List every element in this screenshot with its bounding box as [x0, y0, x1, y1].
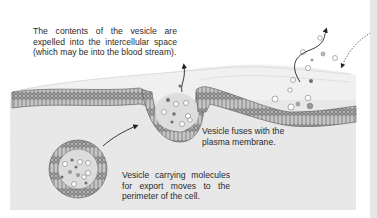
label-fuses: Vesicle fuses with the plasma membrane.: [202, 126, 284, 147]
label-expelled: The contents of the vesicle are expelled…: [33, 26, 177, 58]
transport-vesicle: [49, 140, 107, 198]
label-carrying: Vesicle carrying molecules for export mo…: [122, 170, 230, 202]
label-line: Vesicle fuses with the: [202, 126, 284, 137]
plasma-membrane-left: [12, 88, 148, 108]
label-line: perimeter of the cell.: [122, 191, 230, 202]
label-line: for export moves to the: [122, 181, 230, 192]
label-line: (which may be into the blood stream).: [33, 47, 177, 58]
label-line: plasma membrane.: [202, 137, 284, 148]
label-line: expelled into the intercellular space: [33, 37, 177, 48]
label-line: Vesicle carrying molecules: [122, 170, 230, 181]
label-line: The contents of the vesicle are: [33, 26, 177, 37]
page-edge-strip: [370, 0, 377, 218]
